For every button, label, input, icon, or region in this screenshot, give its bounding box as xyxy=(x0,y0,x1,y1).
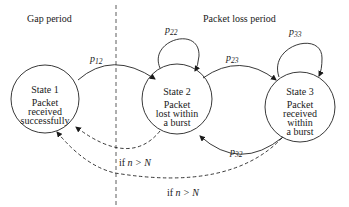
svg-text:State 1: State 1 xyxy=(31,84,59,95)
markov-state-diagram: Gap period Packet loss period State 1 Pa… xyxy=(0,0,349,207)
transition-p33-label: p33 xyxy=(288,26,302,39)
transition-p23-label: p23 xyxy=(225,52,239,65)
svg-text:State 2: State 2 xyxy=(163,86,191,97)
transition-reset-s3-s1-label: if n > N xyxy=(167,187,200,198)
svg-text:State 3: State 3 xyxy=(286,86,314,97)
state-3-text: State 3 Packet received within a burst xyxy=(283,86,317,137)
transition-p12-arrow xyxy=(78,65,155,80)
svg-text:a burst: a burst xyxy=(287,126,314,137)
svg-text:successfully: successfully xyxy=(21,115,70,126)
transition-p12-label: p12 xyxy=(89,53,103,66)
transition-reset-s2-s1-arrow xyxy=(76,127,160,149)
transition-p22-label: p22 xyxy=(164,24,178,37)
transition-reset-s3-s1-arrow xyxy=(57,132,282,178)
transition-p32-label: p32 xyxy=(229,146,243,159)
svg-text:a burst: a burst xyxy=(164,117,191,128)
state-2-text: State 2 Packet lost within a burst xyxy=(156,86,199,128)
state-1-text: State 1 Packet received successfully xyxy=(21,84,70,126)
packet-loss-period-label: Packet loss period xyxy=(203,13,276,24)
gap-period-label: Gap period xyxy=(27,13,72,24)
transition-reset-s2-s1-label: if n > N xyxy=(119,157,152,168)
transition-p23-arrow xyxy=(203,65,276,80)
